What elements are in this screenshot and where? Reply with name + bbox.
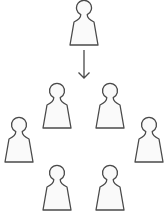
person-mid-right-icon (96, 83, 124, 128)
source-person-icon (70, 0, 98, 45)
person-bot-left-icon (43, 165, 71, 210)
down-arrow-icon (79, 50, 90, 78)
person-mid-left-icon (43, 83, 71, 128)
person-bot-right-icon (96, 165, 124, 210)
person-far-right-icon (135, 117, 163, 162)
people-diagram (0, 0, 168, 222)
person-far-left-icon (5, 117, 33, 162)
